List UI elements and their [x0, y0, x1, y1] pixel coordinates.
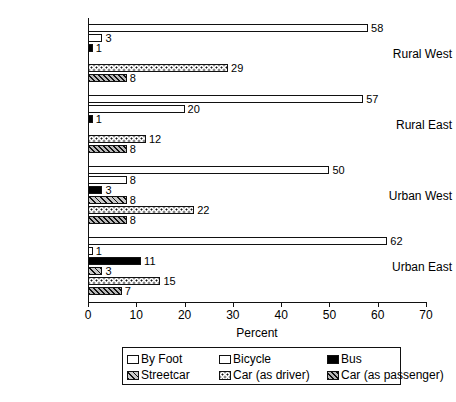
bar: [88, 277, 160, 285]
legend-item: Bicycle: [219, 353, 327, 366]
x-axis-title: Percent: [88, 326, 426, 340]
legend-swatch: [219, 371, 231, 380]
bar: [88, 216, 127, 224]
category-label: Urban West: [372, 189, 456, 203]
bar: [88, 95, 363, 103]
bar-value-label: 8: [130, 195, 136, 206]
x-tick-label: 0: [68, 308, 108, 322]
bar-value-label: 50: [332, 165, 344, 176]
x-tick: [426, 302, 427, 307]
bar-value-label: 1: [96, 114, 102, 125]
legend-item: By Foot: [127, 353, 219, 366]
x-tick: [136, 302, 137, 307]
bar-value-label: 15: [163, 276, 175, 287]
x-tick: [281, 302, 282, 307]
bar: [88, 44, 93, 52]
bar: [88, 64, 228, 72]
bar-value-label: 11: [144, 256, 155, 267]
legend-item: Car (as passenger): [327, 369, 444, 382]
x-tick-label: 40: [261, 308, 301, 322]
bar-value-label: 1: [96, 43, 102, 54]
legend-label: Bus: [341, 353, 362, 366]
x-tick-label: 20: [165, 308, 205, 322]
x-tick-label: 70: [406, 308, 446, 322]
bar: [88, 24, 368, 32]
bar: [88, 287, 122, 295]
legend: By FootBicycleBusStreetcarCar (as driver…: [122, 347, 401, 385]
value-axis-line: [88, 302, 426, 303]
bar: [88, 74, 127, 82]
bar: [88, 105, 185, 113]
bar: [88, 247, 93, 255]
bar-chart: 010203040506070 Rural WestRural EastUrba…: [0, 0, 456, 402]
bar-value-label: 1: [96, 246, 102, 257]
legend-item: Car (as driver): [219, 369, 327, 382]
x-tick: [185, 302, 186, 307]
x-tick-label: 50: [309, 308, 349, 322]
x-tick-label: 10: [116, 308, 156, 322]
bar-value-label: 3: [105, 266, 111, 277]
legend-swatch: [127, 355, 139, 364]
bar: [88, 176, 127, 184]
x-tick: [233, 302, 234, 307]
bar: [88, 186, 102, 194]
bar-value-label: 8: [130, 144, 136, 155]
category-label: Rural East: [372, 118, 456, 132]
bar-value-label: 8: [130, 215, 136, 226]
x-tick-label: 60: [358, 308, 398, 322]
bar-value-label: 58: [371, 23, 383, 34]
bar-value-label: 8: [130, 175, 136, 186]
bar-value-label: 20: [188, 104, 200, 115]
bar: [88, 206, 194, 214]
bar: [88, 145, 127, 153]
legend-item: Bus: [327, 353, 444, 366]
bar: [88, 34, 102, 42]
legend-label: By Foot: [141, 353, 182, 366]
bar: [88, 267, 102, 275]
legend-swatch: [327, 371, 339, 380]
bar-value-label: 29: [231, 63, 243, 74]
x-tick: [378, 302, 379, 307]
bar: [88, 196, 127, 204]
legend-label: Bicycle: [233, 353, 271, 366]
bar: [88, 166, 329, 174]
x-tick: [88, 302, 89, 307]
legend-label: Car (as passenger): [341, 369, 444, 382]
legend-item: Streetcar: [127, 369, 219, 382]
bar: [88, 115, 93, 123]
bar-value-label: 62: [390, 236, 402, 247]
bar-value-label: 3: [105, 185, 111, 196]
bar: [88, 257, 141, 265]
legend-label: Streetcar: [141, 369, 190, 382]
legend-swatch: [127, 371, 139, 380]
category-label: Urban East: [372, 260, 456, 274]
bar-value-label: 8: [130, 73, 136, 84]
x-tick: [329, 302, 330, 307]
bar: [88, 135, 146, 143]
bar-value-label: 22: [197, 205, 209, 216]
legend-swatch: [219, 355, 231, 364]
legend-grid: By FootBicycleBusStreetcarCar (as driver…: [127, 351, 398, 382]
bar: [88, 237, 387, 245]
legend-swatch: [327, 355, 339, 364]
bar-value-label: 57: [366, 94, 378, 105]
category-label: Rural West: [372, 47, 456, 61]
bar-value-label: 3: [105, 33, 111, 44]
legend-label: Car (as driver): [233, 369, 310, 382]
bar-value-label: 12: [149, 134, 161, 145]
x-tick-label: 30: [213, 308, 253, 322]
bar-value-label: 7: [125, 286, 131, 297]
